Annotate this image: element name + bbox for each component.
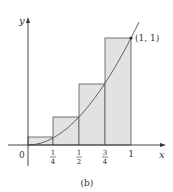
point-label: (1, 1) — [135, 33, 159, 43]
x-axis-arrow-icon — [160, 143, 166, 147]
rectangle-1 — [28, 137, 53, 145]
riemann-sum-chart: (1, 1) y x 0 1 4 1 2 3 4 1 (b) — [0, 0, 173, 192]
rectangle-4 — [105, 38, 131, 145]
svg-text:1: 1 — [51, 149, 55, 157]
svg-text:2: 2 — [77, 158, 81, 166]
svg-text:4: 4 — [103, 158, 108, 166]
tick-one-quarter: 1 4 — [50, 149, 56, 166]
tick-three-quarters: 3 4 — [102, 149, 108, 166]
y-axis-arrow-icon — [26, 17, 30, 23]
rectangle-3 — [79, 84, 105, 145]
tick-one: 1 — [128, 149, 134, 159]
tick-one-half: 1 2 — [76, 149, 82, 166]
x-axis-label: x — [159, 149, 165, 160]
y-axis-label: y — [18, 15, 25, 26]
svg-text:1: 1 — [77, 149, 81, 157]
svg-text:3: 3 — [103, 149, 107, 157]
svg-text:4: 4 — [51, 158, 56, 166]
point-1-1 — [129, 36, 132, 39]
figure-caption: (b) — [81, 178, 94, 188]
origin-label: 0 — [19, 150, 25, 160]
